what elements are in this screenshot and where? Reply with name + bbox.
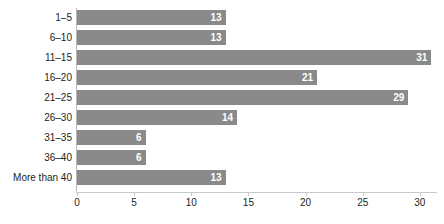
bar-row[interactable]: 14	[77, 110, 437, 125]
bar-value-label: 14	[77, 110, 237, 125]
x-tick-mark	[306, 192, 307, 196]
bar-value-label: 6	[77, 150, 146, 165]
category-label: 1–5	[0, 10, 72, 25]
category-label: 26–30	[0, 110, 72, 125]
x-tick-label: 20	[291, 197, 321, 208]
bar-value-label: 6	[77, 130, 146, 145]
x-tick-label: 5	[119, 197, 149, 208]
plot-area: 1313312129146613	[77, 9, 437, 191]
bar-row[interactable]: 13	[77, 10, 437, 25]
bar-value-label: 13	[77, 10, 226, 25]
x-tick-mark	[191, 192, 192, 196]
category-label: 6–10	[0, 30, 72, 45]
bar-row[interactable]: 29	[77, 90, 437, 105]
bar-value-label: 21	[77, 70, 317, 85]
bar-value-label: 31	[77, 50, 431, 65]
x-tick-mark	[420, 192, 421, 196]
x-tick-mark	[248, 192, 249, 196]
chart-title-clip	[0, 0, 444, 7]
bar-row[interactable]: 21	[77, 70, 437, 85]
bar-row[interactable]: 6	[77, 130, 437, 145]
x-tick-label: 0	[62, 197, 92, 208]
bar-chart: 1–56–1011–1516–2021–2526–3031–3536–40Mor…	[0, 0, 444, 224]
category-label: 16–20	[0, 70, 72, 85]
category-label: 11–15	[0, 50, 72, 65]
bar-value-label: 29	[77, 90, 408, 105]
bar-row[interactable]: 13	[77, 170, 437, 185]
x-tick-label: 10	[176, 197, 206, 208]
category-label: More than 40	[0, 170, 72, 185]
category-label: 31–35	[0, 130, 72, 145]
value-axis-ticks: 051015202530	[77, 192, 437, 222]
bar-row[interactable]: 13	[77, 30, 437, 45]
x-tick-mark	[363, 192, 364, 196]
category-label: 36–40	[0, 150, 72, 165]
x-tick-label: 25	[348, 197, 378, 208]
x-tick-mark	[134, 192, 135, 196]
x-tick-label: 30	[405, 197, 435, 208]
bar-value-label: 13	[77, 170, 226, 185]
bar-row[interactable]: 31	[77, 50, 437, 65]
x-tick-mark	[77, 192, 78, 196]
category-axis-labels: 1–56–1011–1516–2021–2526–3031–3536–40Mor…	[0, 9, 72, 191]
x-tick-label: 15	[233, 197, 263, 208]
bar-row[interactable]: 6	[77, 150, 437, 165]
category-label: 21–25	[0, 90, 72, 105]
bar-value-label: 13	[77, 30, 226, 45]
